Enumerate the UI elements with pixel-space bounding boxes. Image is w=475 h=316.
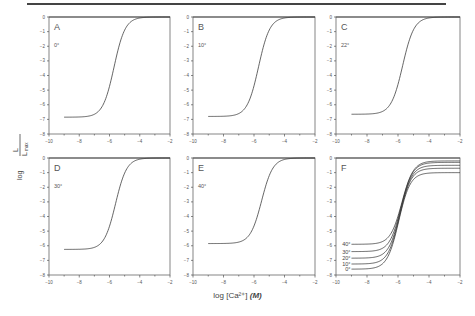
y-tick-label: 0 xyxy=(329,15,332,20)
curve-label: 40° xyxy=(342,241,350,247)
plot-frame xyxy=(49,17,170,134)
figure-panels: 0−1−2−3−4−5−6−7−8−10−8−6−4−2A0°0−1−2−3−4… xyxy=(0,0,475,316)
x-tick-label: −2 xyxy=(457,280,463,285)
y-tick-label: −6 xyxy=(40,102,46,107)
panel-letter: D xyxy=(54,163,61,173)
y-tick-label: −4 xyxy=(184,214,190,219)
y-tick-label: −6 xyxy=(327,102,333,107)
y-tick-label: −5 xyxy=(184,88,190,93)
x-tick-label: −6 xyxy=(395,139,401,144)
x-tick-label: −8 xyxy=(364,280,370,285)
y-tick-label: −5 xyxy=(184,229,190,234)
x-tick-label: −6 xyxy=(107,139,113,144)
y-tick-label: −1 xyxy=(184,170,190,175)
y-tick-label: −8 xyxy=(327,273,333,278)
y-axis-label: log L L max xyxy=(4,128,34,188)
y-tick-label: 0 xyxy=(329,156,332,161)
y-tick-label: −8 xyxy=(40,273,46,278)
y-label-log: log xyxy=(16,171,24,180)
x-tick-label: −2 xyxy=(167,139,173,144)
y-tick-label: −5 xyxy=(40,88,46,93)
temperature-annotation: 30° xyxy=(54,183,62,189)
y-tick-label: −2 xyxy=(40,44,46,49)
panel-letter: A xyxy=(54,22,60,32)
x-tick-label: −10 xyxy=(189,139,197,144)
y-tick-label: −6 xyxy=(184,243,190,248)
x-tick-label: −10 xyxy=(45,280,53,285)
y-tick-label: −4 xyxy=(40,73,46,78)
panel-letter: E xyxy=(198,163,204,173)
x-tick-label: −2 xyxy=(167,280,173,285)
y-tick-label: −1 xyxy=(327,170,333,175)
curve-0deg xyxy=(352,173,461,269)
temperature-annotation: 40° xyxy=(198,183,206,189)
y-tick-label: 0 xyxy=(42,15,45,20)
y-tick-label: 0 xyxy=(186,15,189,20)
y-tick-label: −5 xyxy=(327,229,333,234)
y-label-numerator: L xyxy=(12,148,19,152)
x-tick-label: −6 xyxy=(395,280,401,285)
y-tick-label: −5 xyxy=(40,229,46,234)
x-tick-label: −2 xyxy=(312,139,318,144)
y-tick-label: −4 xyxy=(184,73,190,78)
panel-e: 0−1−2−3−4−5−6−7−8−10−8−6−4−2E40° xyxy=(184,156,318,286)
y-tick-label: −1 xyxy=(184,29,190,34)
x-tick-label: −8 xyxy=(221,139,227,144)
x-tick-label: −8 xyxy=(77,280,83,285)
y-tick-label: −3 xyxy=(184,199,190,204)
plot-frame xyxy=(193,158,315,275)
curve-label: 0° xyxy=(345,266,350,272)
y-tick-label: −7 xyxy=(40,258,46,263)
x-tick-label: −10 xyxy=(45,139,53,144)
x-tick-label: −4 xyxy=(426,139,432,144)
panel-f: 0−1−2−3−4−5−6−7−8−10−8−6−4−2F40°30°20°10… xyxy=(327,156,463,286)
curve-10deg xyxy=(208,17,315,116)
x-tick-label: −4 xyxy=(282,280,288,285)
panel-letter: C xyxy=(341,22,348,32)
y-tick-label: −7 xyxy=(40,117,46,122)
panel-c: 0−1−2−3−4−5−6−7−8−10−8−6−4−2C22° xyxy=(327,15,463,145)
x-label-unit: (M) xyxy=(250,291,262,300)
x-tick-label: −4 xyxy=(137,280,143,285)
curve-40deg xyxy=(208,158,315,244)
x-axis-label: log [Ca²⁺] (M) xyxy=(0,291,475,300)
y-tick-label: −4 xyxy=(327,73,333,78)
y-tick-label: −8 xyxy=(327,132,333,137)
y-tick-label: 0 xyxy=(186,156,189,161)
x-tick-label: −6 xyxy=(107,280,113,285)
y-tick-label: −3 xyxy=(40,199,46,204)
y-tick-label: −1 xyxy=(40,29,46,34)
y-tick-label: −1 xyxy=(40,170,46,175)
curve-30deg xyxy=(64,158,170,249)
plot-frame xyxy=(336,17,460,134)
y-label-denominator: L xyxy=(21,152,28,156)
panel-letter: B xyxy=(198,22,204,32)
y-tick-label: −2 xyxy=(327,44,333,49)
curve-label: 30° xyxy=(342,249,350,255)
x-tick-label: −2 xyxy=(312,280,318,285)
y-tick-label: −2 xyxy=(327,185,333,190)
panel-d: 0−1−2−3−4−5−6−7−8−10−8−6−4−2D30° xyxy=(40,156,173,286)
curve-30deg xyxy=(352,162,461,251)
y-tick-label: −4 xyxy=(327,214,333,219)
y-tick-label: −1 xyxy=(327,29,333,34)
panel-letter: F xyxy=(341,163,347,173)
curve-10deg xyxy=(352,168,461,264)
y-label-denominator-sub: max xyxy=(24,142,29,151)
panel-b: 0−1−2−3−4−5−6−7−8−10−8−6−4−2B10° xyxy=(184,15,318,145)
y-tick-label: −2 xyxy=(184,185,190,190)
y-tick-label: −3 xyxy=(184,58,190,63)
y-tick-label: −4 xyxy=(40,214,46,219)
x-tick-label: −4 xyxy=(426,280,432,285)
y-tick-label: −3 xyxy=(327,199,333,204)
curve-22deg xyxy=(352,17,461,114)
x-tick-label: −4 xyxy=(282,139,288,144)
x-tick-label: −10 xyxy=(332,139,340,144)
x-tick-label: −8 xyxy=(364,139,370,144)
y-tick-label: −3 xyxy=(327,58,333,63)
y-tick-label: −7 xyxy=(327,258,333,263)
x-tick-label: −10 xyxy=(189,280,197,285)
panel-a: 0−1−2−3−4−5−6−7−8−10−8−6−4−2A0° xyxy=(40,15,173,145)
x-tick-label: −6 xyxy=(251,139,257,144)
y-tick-label: −7 xyxy=(327,117,333,122)
